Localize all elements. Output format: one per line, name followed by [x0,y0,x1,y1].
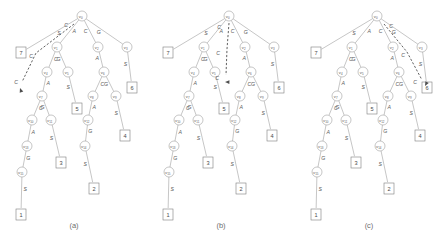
tree-edge [99,52,103,67]
traversal-arrowhead [18,87,23,92]
tree-edge [246,52,250,67]
edge-label: S [318,186,322,192]
edge-label: C [84,28,88,34]
tree-edge [423,52,427,81]
traversal-arrow-label: C [413,79,417,85]
tree-edge [384,101,387,115]
leaf-label: 2 [92,186,95,192]
traversal-arrow-label: C [216,50,220,56]
edge-label: A [92,104,97,110]
caption-c: (c) [295,221,443,230]
edge-label: G [173,155,177,161]
tree-edge [322,19,373,50]
leaf-label: 4 [418,133,421,139]
panel-b: SACGCGASASCGCGASASGGSSv0v1v2v3v4v5v6v7v8… [147,0,295,242]
tree-edge [316,177,317,208]
traversal-arrow-label: C [64,22,68,28]
leaf-label: 1 [166,212,169,218]
leaf-label: 6 [425,85,428,91]
tree-edge [168,177,169,208]
tree-edge [128,52,132,81]
edge-label: G [41,104,45,110]
edge-label: S [57,30,61,36]
tree-edge [381,151,388,182]
edge-label: C [231,28,235,34]
edge-label: S [352,30,356,36]
traversal-arrow-label: C [215,75,219,81]
edge-label: S [50,135,54,141]
leaf-label: 5 [222,106,225,112]
edge-label: S [197,135,201,141]
edge-label: G [88,128,92,134]
edge-label: G [97,29,101,35]
tree-edge [27,19,78,50]
tree-edge [381,19,418,44]
edge-label: S [170,186,174,192]
edge-label: G [188,104,192,110]
edge-label: G [399,81,403,87]
caption-a: (a) [0,221,148,230]
edge-label: S [66,84,70,90]
edge-label: G [383,128,387,134]
tree-edge [381,125,383,141]
tree-edge [117,101,123,129]
leaf-label: 3 [354,160,357,166]
edge-label: A [387,104,392,110]
edge-label: G [26,155,30,161]
edge-label: A [241,55,246,61]
leaf-label: 7 [166,50,169,56]
panel-c: SACGCGASASCGCGASASGGSSv0v1v2v3v4v5v6v7v8… [295,0,443,242]
edge-label: G [203,56,207,62]
edge-label: S [419,61,423,67]
tree-edge [175,125,178,141]
edge-label: S [230,161,234,167]
tree-edge [86,151,93,182]
tree-edge [89,101,92,115]
tree-a: SACGCGASASCGCGASASGGSSv0v1v2v3v4v5v6v7v8… [16,11,137,220]
leaf-label: 3 [59,160,62,166]
edge-label: A [31,129,36,135]
edge-label: S [378,161,382,167]
tree-edge [233,125,235,141]
traversal-arrow-label: C [217,24,221,30]
tree-edge [364,77,370,102]
tree-edge [190,77,193,91]
edge-label: A [366,28,371,34]
tree-edge [28,125,31,141]
edge-label: S [213,84,217,90]
leaf-label: 4 [123,133,126,139]
edge-label: G [351,56,355,62]
panel-c-svg: SACGCGASASCGCGASASGGSSv0v1v2v3v4v5v6v7v8… [295,0,443,242]
edge-label: G [244,29,248,35]
tree-edge [233,19,270,44]
traversal-arrow-label: C [29,53,33,59]
edge-label: A [71,28,76,34]
edge-label: S [345,135,349,141]
edge-label: G [321,155,325,161]
edge-label: A [46,80,51,86]
edge-label: A [326,129,331,135]
traversal-arrowhead [225,80,230,84]
edge-label: S [124,61,128,67]
edge-label: S [23,186,27,192]
tree-edge [236,101,239,115]
leaf-label: 1 [19,212,22,218]
tree-edge [86,19,123,44]
edge-label: A [389,55,394,61]
leaf-label: 6 [277,85,280,91]
panel-a-svg: SACGCGASASCGCGASASGGSSv0v1v2v3v4v5v6v7v8… [0,0,148,242]
edge-label: G [235,128,239,134]
caption-b: (b) [147,221,295,230]
edge-label: A [94,55,99,61]
tree-edge [338,77,341,91]
tree-edge [21,177,22,208]
tree-edge [394,52,398,67]
edge-label: C [379,28,383,34]
tree-b: SACGCGASASCGCGASASGGSSv0v1v2v3v4v5v6v7v8… [163,11,284,220]
edge-label: S [83,161,87,167]
edge-label: G [56,56,60,62]
leaf-label: 6 [130,85,133,91]
traversal-arrow-label: C [389,23,393,29]
tree-edge [69,77,75,102]
edge-label: S [271,61,275,67]
